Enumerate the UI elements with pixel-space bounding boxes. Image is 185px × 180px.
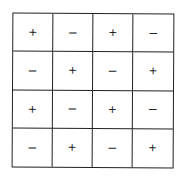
- minus-sign: −: [107, 142, 117, 154]
- minus-sign: −: [148, 27, 158, 39]
- grid-cell: +: [13, 90, 53, 128]
- grid-cell: −: [53, 14, 93, 52]
- plus-sign: +: [28, 27, 37, 38]
- grid-cell: +: [53, 129, 93, 167]
- grid-cell: −: [53, 90, 93, 128]
- plus-sign: +: [148, 66, 157, 77]
- sign-grid: + − + − − + − + + − + − − + − +: [12, 13, 175, 169]
- minus-sign: −: [67, 103, 77, 115]
- minus-sign: −: [68, 26, 78, 38]
- plus-sign: +: [108, 104, 117, 115]
- grid-cell: −: [93, 129, 133, 167]
- minus-sign: −: [28, 65, 38, 77]
- grid-cell: +: [93, 91, 133, 129]
- grid-cell: +: [133, 129, 173, 167]
- grid-cell: −: [133, 91, 173, 129]
- plus-sign: +: [68, 65, 77, 76]
- grid-cell: −: [13, 128, 53, 166]
- grid-cell: +: [133, 52, 173, 90]
- grid-cell: −: [93, 52, 133, 90]
- minus-sign: −: [27, 142, 37, 154]
- plus-sign: +: [28, 103, 37, 114]
- plus-sign: +: [108, 27, 117, 38]
- grid-cell: +: [53, 52, 93, 90]
- grid-cell: −: [13, 52, 53, 90]
- grid-cell: −: [133, 14, 173, 52]
- grid-cell: +: [13, 14, 53, 52]
- minus-sign: −: [148, 103, 158, 115]
- plus-sign: +: [68, 142, 77, 153]
- grid-cell: +: [93, 14, 133, 52]
- plus-sign: +: [148, 143, 157, 154]
- minus-sign: −: [108, 65, 118, 77]
